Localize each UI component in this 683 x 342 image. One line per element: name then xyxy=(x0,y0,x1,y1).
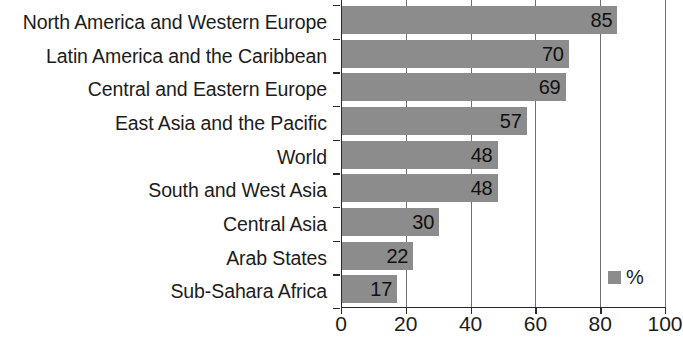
bar-row: 85 xyxy=(342,5,666,39)
bar-series: 85 70 69 57 48 48 xyxy=(342,5,666,308)
category-label-row: Latin America and the Caribbean xyxy=(0,39,333,73)
value-axis-tick-label: 40 xyxy=(459,312,482,336)
category-label: Central and Eastern Europe xyxy=(88,79,327,99)
bar-row: 70 xyxy=(342,39,666,73)
value-axis-tick-label: 0 xyxy=(335,312,347,336)
bar-row: 30 xyxy=(342,207,666,241)
category-axis-tick xyxy=(333,173,340,174)
value-axis-tick xyxy=(665,308,666,314)
category-label: South and West Asia xyxy=(148,180,327,200)
bar-value-label: 70 xyxy=(542,44,564,64)
bar-row: 48 xyxy=(342,140,666,174)
category-label-row: South and West Asia xyxy=(0,173,333,207)
category-axis-tick xyxy=(333,308,340,309)
bar[interactable]: 17 xyxy=(342,275,397,303)
category-axis-tick xyxy=(333,207,340,208)
legend-swatch-icon xyxy=(608,271,621,284)
value-axis-tick-label: 100 xyxy=(647,312,682,336)
bar-value-label: 85 xyxy=(591,10,613,30)
legend-label: % xyxy=(626,267,644,287)
value-axis-tick-label: 80 xyxy=(589,312,612,336)
category-axis-tick xyxy=(333,241,340,242)
category-label: Sub-Sahara Africa xyxy=(170,281,327,301)
category-label: Central Asia xyxy=(223,214,327,234)
bar-value-label: 30 xyxy=(412,212,434,232)
category-axis-tick xyxy=(333,274,340,275)
bar-row: 57 xyxy=(342,106,666,140)
category-axis-tick xyxy=(333,106,340,107)
category-label-row: Central Asia xyxy=(0,207,333,241)
value-axis-tick xyxy=(341,308,342,314)
category-label: Latin America and the Caribbean xyxy=(46,46,327,66)
value-axis-tick xyxy=(406,308,407,314)
bar-value-label: 57 xyxy=(500,111,522,131)
bar-row: 48 xyxy=(342,173,666,207)
category-label: World xyxy=(277,147,327,167)
category-label-row: East Asia and the Pacific xyxy=(0,106,333,140)
bar[interactable]: 22 xyxy=(342,242,413,270)
value-axis-tick-labels: 020406080100 xyxy=(0,312,682,342)
category-axis: North America and Western Europe Latin A… xyxy=(0,5,333,308)
value-axis-tick-label: 20 xyxy=(394,312,417,336)
bar[interactable]: 69 xyxy=(342,73,566,101)
category-label: East Asia and the Pacific xyxy=(115,113,327,133)
bar[interactable]: 70 xyxy=(342,40,569,68)
bar[interactable]: 48 xyxy=(342,141,498,169)
bar-value-label: 48 xyxy=(471,145,493,165)
category-axis-tick xyxy=(333,140,340,141)
bar-value-label: 22 xyxy=(386,246,408,266)
bar-row: 69 xyxy=(342,72,666,106)
category-axis-tick xyxy=(333,5,340,6)
bar[interactable]: 85 xyxy=(342,6,617,34)
value-axis-tick-label: 60 xyxy=(524,312,547,336)
category-axis-tick xyxy=(333,72,340,73)
bar[interactable]: 48 xyxy=(342,174,498,202)
category-label-row: North America and Western Europe xyxy=(0,5,333,39)
category-label-row: Arab States xyxy=(0,241,333,275)
category-label-row: World xyxy=(0,140,333,174)
category-axis-tick xyxy=(333,39,340,40)
bar[interactable]: 30 xyxy=(342,208,439,236)
value-axis-tick xyxy=(535,308,536,314)
category-label: North America and Western Europe xyxy=(23,12,327,32)
value-axis-tick xyxy=(471,308,472,314)
bar-value-label: 48 xyxy=(471,178,493,198)
category-label-row: Sub-Sahara Africa xyxy=(0,274,333,308)
bar-value-label: 69 xyxy=(539,77,561,97)
category-label: Arab States xyxy=(226,248,327,268)
legend: % xyxy=(608,267,644,287)
category-label-row: Central and Eastern Europe xyxy=(0,72,333,106)
value-axis-tick xyxy=(600,308,601,314)
bar-value-label: 17 xyxy=(370,279,392,299)
bar[interactable]: 57 xyxy=(342,107,527,135)
